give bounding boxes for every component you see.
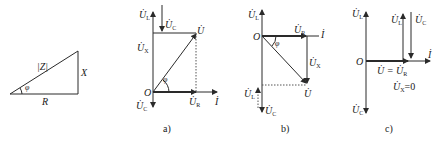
label-b-i: İ: [321, 30, 324, 40]
panel-c-lines: [366, 12, 430, 113]
label-a-ul: U̇L: [139, 10, 150, 21]
impedance-triangle: [10, 51, 78, 94]
label-z-magnitude: |Z|: [37, 62, 48, 72]
label-b-origin: O: [253, 32, 260, 42]
label-a-ux: U̇X: [137, 43, 149, 54]
caption-b: b): [281, 124, 289, 134]
label-a-phi: φ: [163, 76, 167, 84]
label-a-i: İ: [215, 97, 218, 107]
label-b-uc: U̇C: [265, 106, 276, 117]
label-b-ul-bottom: U̇L: [244, 89, 255, 100]
label-b-u: U̇: [304, 89, 311, 99]
label-phi: φ: [25, 84, 29, 92]
label-c-i: İ: [428, 50, 431, 60]
label-x: X: [81, 68, 87, 78]
label-c-ul-mid: U̇L: [391, 15, 402, 26]
phasor-diagram-figure: |Z| X R φ U̇L U̇C U̇X U̇ φ O U̇R İ U̇C a…: [0, 0, 436, 143]
label-c-uc-bottom: U̇C: [352, 105, 363, 116]
label-a-u: U̇: [197, 26, 204, 36]
label-b-phi: φ: [275, 40, 279, 48]
label-a-origin: O: [144, 88, 151, 98]
label-c-uc-mid: U̇C: [415, 15, 426, 26]
caption-a: a): [163, 124, 171, 134]
label-c-ux-zero: U̇X=0: [393, 82, 415, 93]
label-b-ul-top: U̇L: [248, 10, 259, 21]
label-b-ur: U̇R: [294, 25, 305, 36]
label-c-u-equals-ur: U̇ = U̇R: [377, 66, 407, 77]
label-c-ul-axis: U̇L: [352, 9, 363, 20]
label-r: R: [42, 97, 48, 107]
caption-c: c): [385, 124, 393, 134]
diagram-lines: [0, 0, 436, 143]
panel-a-lines: [153, 5, 217, 107]
label-a-ur: U̇R: [189, 97, 200, 108]
label-b-ux: U̇X: [309, 58, 321, 69]
label-a-uc-top: U̇C: [165, 20, 176, 31]
label-a-uc-bottom: U̇C: [136, 101, 147, 112]
label-c-origin: O: [356, 57, 363, 67]
